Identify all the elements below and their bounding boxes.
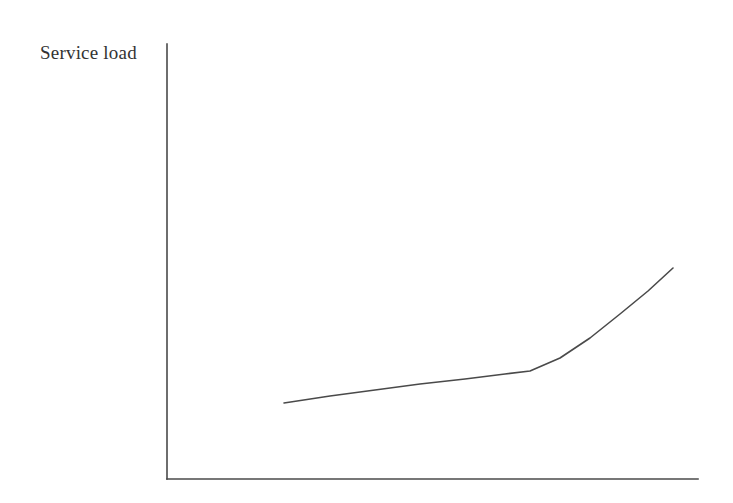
plot-area <box>0 0 733 503</box>
service-load-curve <box>284 268 673 403</box>
chart-figure: Service load <box>0 0 733 503</box>
